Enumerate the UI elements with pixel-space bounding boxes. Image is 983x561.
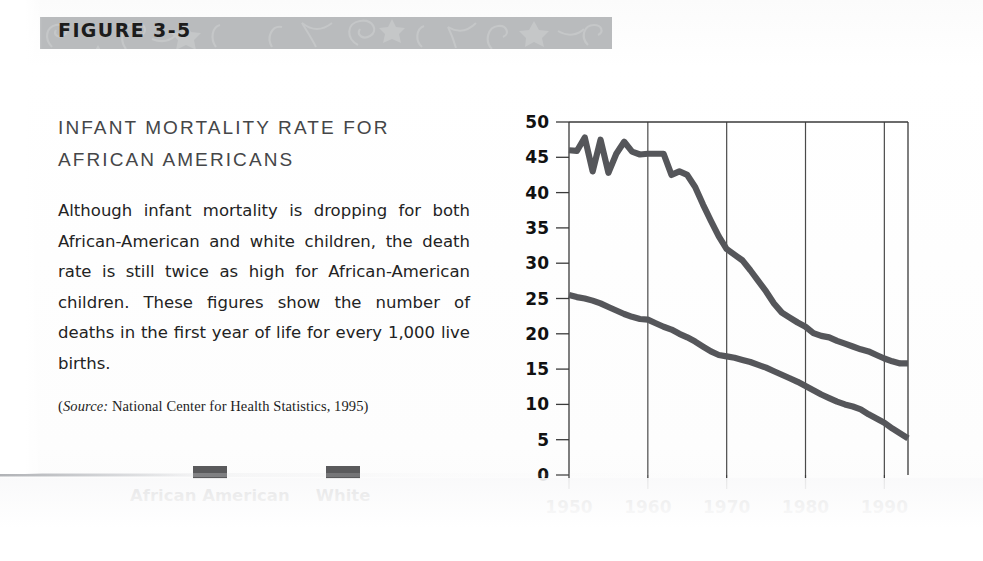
chart-x-tick-label: 1970	[703, 497, 750, 517]
figure-text-column: INFANT MORTALITY RATE FOR AFRICAN AMERIC…	[58, 112, 478, 415]
chart-y-tick-label: 30	[525, 253, 549, 273]
chart-x-axis: 19501960197019801990	[545, 475, 908, 517]
chart-legend: African American White	[130, 466, 370, 505]
chart-y-tick-label: 25	[525, 289, 549, 309]
legend-item-white: White	[316, 466, 371, 505]
legend-swatch-icon	[326, 466, 360, 479]
chart-x-tick-label: 1960	[624, 497, 671, 517]
figure-body-text: Although infant mortality is dropping fo…	[58, 196, 470, 379]
chart-series	[569, 138, 908, 439]
chart-x-tick-label: 1990	[861, 497, 908, 517]
chart-canvas: 05101520253035404550 1950196019701980199…	[510, 108, 930, 518]
chart-line-white	[569, 295, 908, 438]
chart-y-tick-label: 45	[525, 147, 549, 167]
legend-item-african-american: African American	[130, 466, 290, 505]
chart-y-axis: 05101520253035404550	[525, 112, 569, 485]
chart-y-tick-label: 10	[525, 394, 549, 414]
page-title: INFANT MORTALITY RATE FOR AFRICAN AMERIC…	[58, 112, 478, 176]
chart-frame	[569, 122, 908, 475]
line-chart: 05101520253035404550 1950196019701980199…	[510, 108, 930, 518]
chart-y-tick-label: 15	[525, 359, 549, 379]
legend-label: African American	[130, 486, 290, 505]
scan-artifact-left-fade	[0, 0, 42, 474]
legend-swatch-icon	[193, 466, 227, 479]
chart-y-tick-label: 5	[537, 430, 549, 450]
figure-source-line: (Source: National Center for Health Stat…	[58, 398, 478, 415]
chart-y-tick-label: 0	[537, 465, 549, 485]
figure-page: FIGURE 3-5 INFANT MORTALITY RATE FOR AFR…	[0, 0, 983, 561]
chart-line-african-american	[569, 138, 908, 364]
chart-y-tick-label: 40	[525, 183, 549, 203]
figure-label: FIGURE 3-5	[58, 19, 192, 41]
chart-y-tick-label: 20	[525, 324, 549, 344]
source-text: National Center for Health Statistics, 1…	[108, 398, 368, 414]
source-emphasis: Source:	[63, 398, 108, 414]
chart-x-tick-label: 1950	[545, 497, 592, 517]
chart-x-tick-label: 1980	[782, 497, 829, 517]
chart-y-tick-label: 50	[525, 112, 549, 132]
chart-y-tick-label: 35	[525, 218, 549, 238]
legend-label: White	[316, 486, 371, 505]
